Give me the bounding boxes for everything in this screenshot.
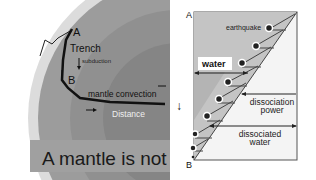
point-b-label: B bbox=[68, 74, 75, 86]
mantle-cross-section-panel: A B Trench subduction mantle convection … bbox=[0, 0, 170, 180]
earthquake-label: earthquake bbox=[226, 24, 261, 32]
subduction-detail-diagram: A B ↓ earthquake water dissociation powe… bbox=[170, 0, 316, 180]
trench-label: Trench bbox=[70, 43, 101, 54]
water-label: water bbox=[201, 59, 226, 69]
point-b-label: B bbox=[186, 160, 192, 170]
subduction-detail-panel: A B ↓ earthquake water dissociation powe… bbox=[170, 0, 316, 180]
slab-tip-dot bbox=[192, 156, 195, 159]
subduction-label: subduction bbox=[82, 58, 111, 64]
depth-arrow-icon: ↓ bbox=[176, 99, 182, 113]
dissociation-power-label-line2: power bbox=[260, 105, 283, 115]
diagram-caption: A mantle is not a bbox=[42, 148, 170, 170]
point-a-label: A bbox=[73, 26, 81, 38]
dissociated-water-label-line2: water bbox=[249, 137, 271, 147]
point-a-label: A bbox=[186, 10, 192, 20]
mantle-convection-label: mantle convection bbox=[88, 89, 157, 99]
distance-label: Distance bbox=[112, 109, 145, 119]
